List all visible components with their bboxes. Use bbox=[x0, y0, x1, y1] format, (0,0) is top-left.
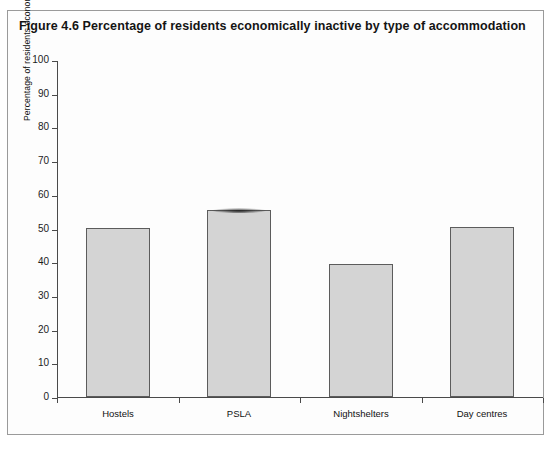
y-tick-70: 70 bbox=[57, 162, 58, 163]
y-tick-mark bbox=[52, 95, 57, 96]
y-tick-mark bbox=[52, 196, 57, 197]
category-label-day-centres: Day centres bbox=[457, 408, 508, 419]
y-tick-80: 80 bbox=[57, 128, 58, 129]
y-tick-mark bbox=[52, 331, 57, 332]
x-tick-mark bbox=[543, 398, 544, 403]
bar-psla bbox=[207, 210, 271, 397]
figure-panel: Figure 4.6 Percentage of residents econo… bbox=[7, 10, 544, 435]
y-tick-mark bbox=[52, 297, 57, 298]
bar-hostels bbox=[86, 228, 150, 397]
y-tick-20: 20 bbox=[57, 331, 58, 332]
y-tick-100: 100 bbox=[57, 61, 58, 62]
y-tick-label: 30 bbox=[19, 290, 49, 301]
y-tick-mark bbox=[52, 263, 57, 264]
category-label-psla: PSLA bbox=[227, 408, 251, 419]
y-tick-mark bbox=[52, 364, 57, 365]
plot-area: 0102030405060708090100 HostelsPSLANights… bbox=[57, 61, 543, 398]
y-tick-30: 30 bbox=[57, 297, 58, 298]
bar-day-centres bbox=[450, 227, 514, 397]
y-tick-label: 90 bbox=[19, 88, 49, 99]
figure-title: Figure 4.6 Percentage of residents econo… bbox=[19, 19, 526, 33]
y-tick-40: 40 bbox=[57, 263, 58, 264]
y-tick-label: 100 bbox=[19, 54, 49, 65]
y-tick-label: 10 bbox=[19, 357, 49, 368]
y-tick-mark bbox=[52, 61, 57, 62]
y-tick-label: 40 bbox=[19, 256, 49, 267]
y-tick-label: 50 bbox=[19, 223, 49, 234]
y-tick-label: 60 bbox=[19, 189, 49, 200]
y-tick-mark bbox=[52, 128, 57, 129]
x-tick-mark bbox=[179, 398, 180, 403]
y-tick-10: 10 bbox=[57, 364, 58, 365]
y-tick-mark bbox=[52, 230, 57, 231]
category-label-hostels: Hostels bbox=[102, 408, 134, 419]
bar-nightshelters bbox=[329, 264, 393, 397]
y-tick-label: 70 bbox=[19, 155, 49, 166]
x-tick-mark bbox=[300, 398, 301, 403]
y-tick-60: 60 bbox=[57, 196, 58, 197]
x-tick-mark bbox=[422, 398, 423, 403]
category-label-nightshelters: Nightshelters bbox=[333, 408, 388, 419]
y-tick-label: 0 bbox=[19, 391, 49, 402]
y-tick-50: 50 bbox=[57, 230, 58, 231]
y-tick-90: 90 bbox=[57, 95, 58, 96]
x-tick-mark bbox=[57, 398, 58, 403]
y-tick-label: 80 bbox=[19, 121, 49, 132]
y-tick-label: 20 bbox=[19, 324, 49, 335]
y-tick-mark bbox=[52, 162, 57, 163]
